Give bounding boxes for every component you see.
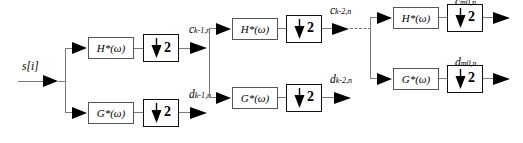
- stage2-highpass-filter-label: H*(ω): [241, 23, 270, 35]
- stage3-top-downsampler[interactable]: 2: [447, 4, 483, 32]
- stage3-highpass-filter[interactable]: H*(ω): [393, 7, 439, 29]
- stage1-highpass-filter[interactable]: H*(ω): [88, 37, 134, 59]
- stage2-approx-label: ck-2,n: [330, 4, 351, 16]
- stage1-split-vertical: [65, 48, 66, 113]
- stage1-detail-output-arrow-icon: [190, 106, 208, 120]
- down-arrow-icon: [294, 87, 305, 109]
- stage2-approx-output-arrow-icon: [332, 22, 350, 36]
- stage3-lowpass-filter-label: G*(ω): [402, 73, 431, 85]
- stage2-top-wire-mid: [278, 28, 286, 29]
- stage1-top-downsampler[interactable]: 2: [143, 34, 179, 62]
- stage3-bottom-wire-mid: [439, 78, 447, 79]
- stage2-lowpass-filter[interactable]: G*(ω): [232, 87, 278, 109]
- stage1-bottom-wire-mid: [134, 112, 143, 113]
- stage2-top-input-arrow-icon: [216, 22, 232, 36]
- stage1-detail-label: dk-1,n: [189, 88, 211, 100]
- stage3-bottom-input-arrow-icon: [377, 72, 393, 86]
- down-arrow-icon: [294, 18, 305, 40]
- stage3-approx-label: cm0,n: [455, 0, 476, 7]
- input-arrow-icon: [43, 74, 59, 88]
- stage2-bottom-wire-mid: [278, 97, 286, 98]
- stage3-top-input-arrow-icon: [377, 11, 393, 25]
- stage3-detail-output-arrow-icon: [493, 72, 511, 86]
- stage1-top-downsample-factor: 2: [164, 41, 171, 56]
- stage1-approx-output-arrow-icon: [190, 41, 208, 55]
- down-arrow-icon: [455, 68, 466, 90]
- stage3-split-vertical: [370, 17, 371, 79]
- down-arrow-icon: [151, 37, 162, 59]
- stage3-top-downsample-factor: 2: [468, 10, 475, 25]
- stage1-approx-label: ck-1,n: [189, 23, 210, 35]
- stage3-highpass-filter-label: H*(ω): [402, 12, 431, 24]
- stage1-bottom-downsampler[interactable]: 2: [143, 99, 179, 127]
- continuation-dashed-connector: [350, 28, 371, 29]
- stage2-top-downsampler[interactable]: 2: [286, 15, 322, 43]
- stage1-bottom-input-arrow-icon: [72, 106, 88, 120]
- stage1-bottom-downsample-factor: 2: [164, 105, 171, 120]
- stage2-detail-output-arrow-icon: [334, 91, 352, 105]
- input-wire: [18, 81, 45, 82]
- stage1-lowpass-filter-label: G*(ω): [97, 107, 126, 119]
- wavelet-filter-bank-diagram: s[i] H*(ω) 2 ck-1,n G*(ω): [0, 0, 523, 143]
- input-signal-label: s[i]: [22, 60, 39, 72]
- stage2-bottom-downsample-factor: 2: [307, 90, 314, 105]
- stage1-lowpass-filter[interactable]: G*(ω): [88, 102, 134, 124]
- stage3-bottom-downsample-factor: 2: [468, 71, 475, 86]
- stage3-lowpass-filter[interactable]: G*(ω): [393, 68, 439, 90]
- stage1-top-input-arrow-icon: [72, 41, 88, 55]
- stage2-lowpass-filter-label: G*(ω): [241, 92, 270, 104]
- stage2-bottom-downsampler[interactable]: 2: [286, 84, 322, 112]
- stage3-top-wire-mid: [439, 17, 447, 18]
- stage2-bottom-input-arrow-icon: [216, 91, 232, 105]
- stage1-highpass-filter-label: H*(ω): [97, 42, 126, 54]
- stage1-top-wire-mid: [134, 48, 143, 49]
- stage2-split-vertical: [209, 28, 210, 98]
- down-arrow-icon: [455, 7, 466, 29]
- stage2-highpass-filter[interactable]: H*(ω): [232, 18, 278, 40]
- stage3-approx-output-arrow-icon: [493, 11, 511, 25]
- stage3-bottom-downsampler[interactable]: 2: [447, 65, 483, 93]
- stage2-detail-label: dk-2,n: [330, 73, 352, 85]
- stage2-top-downsample-factor: 2: [307, 21, 314, 36]
- stage3-detail-label: dm0,n: [455, 56, 477, 68]
- down-arrow-icon: [151, 102, 162, 124]
